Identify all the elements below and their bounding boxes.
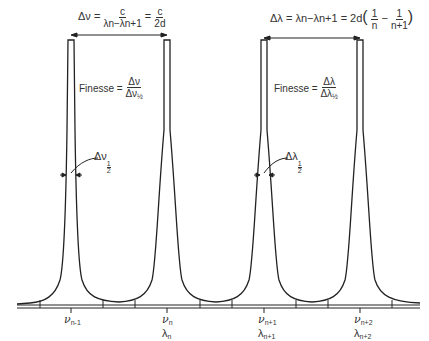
free-spectral-range-arrow-right [264,36,360,40]
nu-symbol: ν [162,313,169,326]
half-denominator: 2 [298,168,302,174]
finesse-label: Finesse = [79,83,123,94]
fraction-numerator: Δλ [322,76,336,88]
equation-free-spectral-range-frequency: Δν = c λn−λn+1 = c 2d [78,6,165,29]
half-subscript: ½ [137,93,143,100]
fraction-c-over-2d: c 2d [154,6,165,29]
subscript: n [169,319,173,326]
subscript: n+2 [360,333,372,340]
fraction-denominator: n+1 [391,20,408,31]
fraction-numerator: 1 [371,8,379,20]
fraction-denominator: λn−λn+1 [103,18,141,29]
finesse-wavelength-formula: Finesse = Δλ Δλ½ [274,76,338,102]
subscript: n+1 [265,319,277,326]
nu-symbol: ν [64,313,71,326]
fraction-denominator: n [372,20,378,31]
halfwidth-label-wavelength: Δλ12 [285,151,302,174]
finesse-frequency-formula: Finesse = Δν Δν½ [79,76,143,102]
label-lambda-n-plus-2: λn+2 [354,328,371,340]
equation-free-spectral-range-wavelength: Δλ = λn−λn+1 = 2d( 1 n − 1 n+1 ) [270,8,413,31]
free-spectral-range-arrow-left [71,33,167,37]
fraction-numerator: 1 [396,8,404,20]
fraction-denominator: Δν½ [125,88,143,102]
label-nu-n-plus-2: νn+2 [354,314,373,326]
subscript: n [168,333,172,340]
finesse-label: Finesse = [274,83,318,94]
fraction-numerator: Δν [127,76,141,88]
halfwidth-label-frequency: Δν12 [94,151,111,174]
subscript: n+1 [264,333,276,340]
minus-sign: − [381,12,387,24]
nu-symbol: ν [354,313,361,326]
half-fraction: 12 [298,161,302,174]
label-lambda-n: λn [162,328,171,340]
half-subscript: ½ [332,93,338,100]
halfwidth-symbol: Δλ [285,150,298,162]
subscript: n-1 [71,319,81,326]
finesse-fraction: Δν Δν½ [125,76,143,102]
transmission-curve [17,40,420,304]
fraction-denominator: 2d [154,18,165,29]
subscript: n+2 [361,319,373,326]
fraction-numerator: c [119,6,126,18]
finesse-fraction: Δλ Δλ½ [320,76,338,102]
label-nu-n: νn [162,314,173,326]
fraction-denominator: Δλ½ [320,88,338,102]
fraction-c-over-lambda-diff: c λn−λn+1 [103,6,141,29]
label-nu-n-minus-1: νn-1 [64,314,81,326]
equals-sign: = [145,10,151,22]
halfwidth-symbol: Δν [94,150,107,162]
half-denominator: 2 [107,168,111,174]
label-lambda-n-plus-1: λn+1 [258,328,275,340]
equation-lhs: Δλ = λn−λn+1 = 2d [270,12,362,24]
denominator-symbol: Δλ [320,88,332,99]
fraction-1-over-n-plus-1: 1 n+1 [391,8,408,31]
diagram-canvas [0,0,429,341]
half-fraction: 12 [107,161,111,174]
nu-symbol: ν [258,313,265,326]
fraction-numerator: c [156,6,163,18]
equation-lhs: Δν = [78,10,100,22]
fraction-1-over-n: 1 n [371,8,379,31]
label-nu-n-plus-1: νn+1 [258,314,277,326]
denominator-symbol: Δν [125,88,137,99]
